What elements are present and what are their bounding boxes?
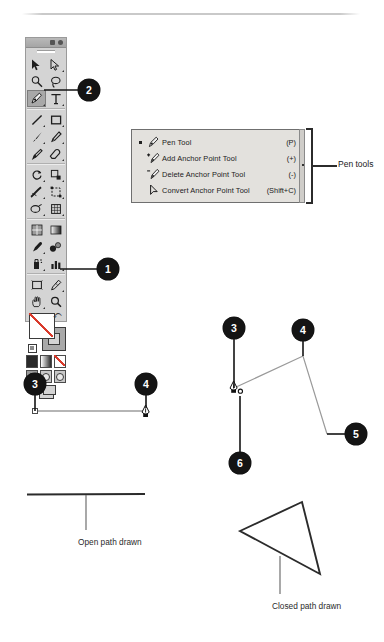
tool-eraser[interactable] <box>46 145 65 162</box>
menu-item-add-anchor-point-tool[interactable]: Add Anchor Point Tool (+) <box>132 150 304 166</box>
menu-item-delete-anchor-point-tool[interactable]: Delete Anchor Point Tool (-) <box>132 166 304 182</box>
tool-artboard[interactable] <box>27 276 46 293</box>
delete-anchor-point-tool-icon <box>145 168 162 180</box>
paintbrush-tool-icon <box>31 131 43 143</box>
tools-panel-titlebar[interactable] <box>26 38 66 48</box>
convert-anchor-point-tool-icon <box>145 184 162 196</box>
tool-type[interactable] <box>46 90 65 107</box>
rotate-tool-icon <box>31 169 43 181</box>
tool-pencil[interactable] <box>46 128 65 145</box>
callout-badge-4a[interactable]: 4 <box>135 373 157 395</box>
flyout-arrow-icon[interactable] <box>62 125 64 127</box>
tool-paintbrush[interactable] <box>27 128 46 145</box>
blend-tool-icon <box>49 241 62 253</box>
artboard-tool-icon <box>31 279 43 291</box>
menu-item-convert-anchor-point-tool[interactable]: Convert Anchor Point Tool (Shift+C) <box>132 182 304 198</box>
tool-magic-wand[interactable] <box>27 73 46 90</box>
tool-column-graph[interactable] <box>46 255 65 272</box>
tool-lasso[interactable] <box>46 73 65 90</box>
figure-page: ⤺ Pen Tool (P) <box>0 0 384 642</box>
gradient-tool-icon <box>50 224 62 236</box>
flyout-arrow-icon[interactable] <box>43 180 45 182</box>
draw-inside-button[interactable] <box>54 370 66 383</box>
free-transform-tool-icon <box>50 186 62 198</box>
pen-close-path-cursor <box>230 381 243 393</box>
gradient-swatch-button[interactable] <box>40 355 52 368</box>
fill-stroke-swatch[interactable]: ⤺ <box>28 313 64 353</box>
tool-width[interactable] <box>27 183 46 200</box>
pen-tools-bracket <box>306 128 313 204</box>
tool-zoom[interactable] <box>46 293 65 310</box>
collapse-icon[interactable] <box>50 40 55 45</box>
flyout-arrow-icon[interactable] <box>62 197 64 199</box>
menu-item-shortcut: (+) <box>287 154 296 163</box>
callout-badge-6[interactable]: 6 <box>229 452 251 474</box>
width-tool-icon <box>30 186 43 198</box>
tool-eyedropper[interactable] <box>27 238 46 255</box>
tool-line-segment[interactable] <box>27 111 46 128</box>
menu-item-label: Pen Tool <box>162 138 286 147</box>
none-swatch-button[interactable] <box>54 355 66 368</box>
tools-panel[interactable]: ⤺ <box>25 37 67 322</box>
magic-wand-tool-icon <box>31 76 43 88</box>
top-divider <box>22 13 360 15</box>
flyout-arrow-icon[interactable] <box>43 125 45 127</box>
flyout-arrow-icon[interactable] <box>43 252 45 254</box>
hand-tool-icon <box>31 296 43 308</box>
line-segment-tool-icon <box>31 114 43 126</box>
default-fill-stroke-icon[interactable] <box>28 344 37 353</box>
flyout-arrow-icon[interactable] <box>62 142 64 144</box>
tool-shape-builder[interactable] <box>27 200 46 217</box>
tool-rotate[interactable] <box>27 166 46 183</box>
flyout-arrow-icon[interactable] <box>62 180 64 182</box>
tool-pen[interactable] <box>27 90 46 107</box>
flyout-arrow-icon[interactable] <box>43 104 45 106</box>
callout-badge-3b[interactable]: 3 <box>223 317 245 339</box>
fill-swatch-none[interactable] <box>29 313 55 339</box>
flyout-arrow-icon[interactable] <box>43 307 45 309</box>
flyout-arrow-icon[interactable] <box>62 214 64 216</box>
tool-blob-brush[interactable] <box>27 145 46 162</box>
tool-gradient[interactable] <box>46 221 65 238</box>
tools-grid[interactable] <box>26 55 66 310</box>
panel-grip <box>26 48 66 55</box>
color-swatch-button[interactable] <box>26 355 38 368</box>
tool-free-transform[interactable] <box>46 183 65 200</box>
callout-badge-4b[interactable]: 4 <box>292 319 314 341</box>
flyout-arrow-icon[interactable] <box>62 159 64 161</box>
callout-badge-5[interactable]: 5 <box>345 423 367 445</box>
flyout-arrow-icon[interactable] <box>43 269 45 271</box>
menu-item-pen-tool[interactable]: Pen Tool (P) <box>132 134 304 150</box>
tool-perspective-grid[interactable] <box>46 200 65 217</box>
callout-badge-2[interactable]: 2 <box>78 79 100 101</box>
tool-symbol-sprayer[interactable] <box>27 255 46 272</box>
tool-hand[interactable] <box>27 293 46 310</box>
close-icon[interactable] <box>58 40 63 45</box>
tool-mesh[interactable] <box>27 221 46 238</box>
flyout-arrow-icon[interactable] <box>43 142 45 144</box>
tool-scale[interactable] <box>46 166 65 183</box>
flyout-arrow-icon[interactable] <box>62 290 64 292</box>
color-mode-row[interactable] <box>26 355 66 368</box>
flyout-arrow-icon[interactable] <box>62 70 64 72</box>
shape-builder-tool-icon <box>30 203 43 215</box>
flyout-arrow-icon[interactable] <box>62 269 64 271</box>
flyout-arrow-icon[interactable] <box>43 214 45 216</box>
callout-badge-1[interactable]: 1 <box>97 258 119 280</box>
tool-direct-selection[interactable] <box>46 56 65 73</box>
tool-blend[interactable] <box>46 238 65 255</box>
tool-selection[interactable] <box>27 56 46 73</box>
callout-badge-3a[interactable]: 3 <box>24 373 46 395</box>
pen-tool-cursor <box>142 405 149 417</box>
menu-item-shortcut: (-) <box>289 170 296 179</box>
flyout-arrow-icon[interactable] <box>62 104 64 106</box>
swap-fill-stroke-icon[interactable]: ⤺ <box>53 312 62 320</box>
tool-slice[interactable] <box>46 276 65 293</box>
eraser-tool-icon <box>49 148 62 160</box>
closed-path-caption: Closed path drawn <box>272 601 341 611</box>
flyout-arrow-icon[interactable] <box>43 197 45 199</box>
pen-tools-flyout[interactable]: Pen Tool (P) Add Anchor Point Tool (+) D… <box>131 129 305 203</box>
flyout-tearoff-strip[interactable] <box>299 129 305 203</box>
open-path-caption: Open path drawn <box>78 537 142 547</box>
tool-rectangle[interactable] <box>46 111 65 128</box>
